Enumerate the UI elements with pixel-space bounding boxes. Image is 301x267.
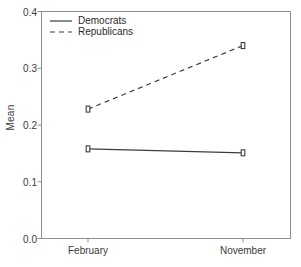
plot-area [0,0,301,267]
plot-frame [42,12,291,239]
x-axis-ticks [88,239,243,243]
data-series-layer [86,43,245,156]
y-axis-ticks [38,12,42,239]
legend-label-republicans: Republicans [78,26,133,37]
legend-label-democrats: Democrats [78,15,126,26]
data-point-marker [86,106,90,112]
series-line-democrats [88,149,243,153]
data-point-marker [86,146,90,152]
data-point-marker [241,150,245,156]
data-point-marker [241,43,245,49]
series-line-republicans [88,46,243,110]
legend-line-samples [50,21,72,32]
chart-figure: Mean 0.00.10.20.30.4 FebruaryNovember De… [0,0,301,267]
